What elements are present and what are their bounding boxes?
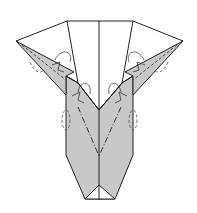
diagram-canvas	[0, 0, 197, 213]
